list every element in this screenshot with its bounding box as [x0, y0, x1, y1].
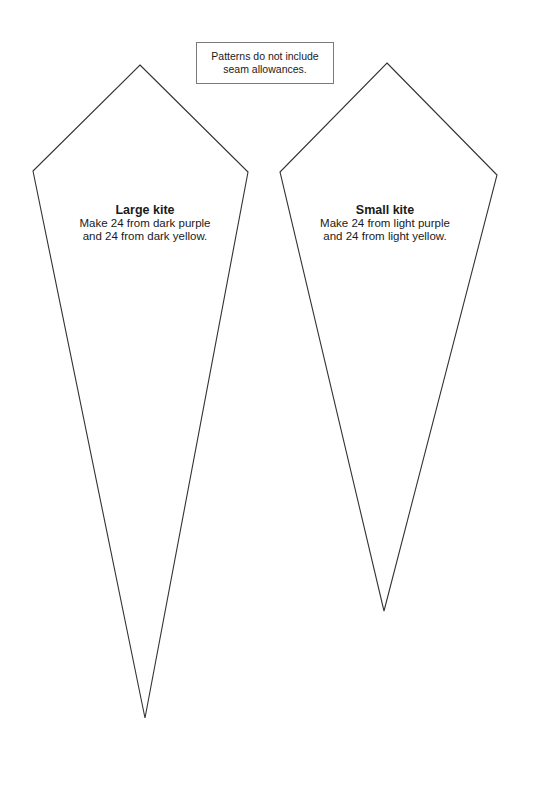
small-kite-instruction-1: Make 24 from light purple	[300, 217, 470, 230]
seam-allowance-note: Patterns do not include seam allowances.	[196, 42, 334, 84]
pattern-shapes	[0, 0, 534, 791]
large-kite-title: Large kite	[60, 203, 230, 217]
small-kite-instruction-2: and 24 from light yellow.	[300, 230, 470, 243]
large-kite-instruction-1: Make 24 from dark purple	[60, 217, 230, 230]
large-kite-template	[33, 65, 248, 718]
large-kite-label: Large kite Make 24 from dark purple and …	[60, 203, 230, 243]
note-line-1: Patterns do not include	[211, 50, 318, 63]
note-line-2: seam allowances.	[223, 63, 306, 76]
large-kite-instruction-2: and 24 from dark yellow.	[60, 230, 230, 243]
small-kite-label: Small kite Make 24 from light purple and…	[300, 203, 470, 243]
small-kite-title: Small kite	[300, 203, 470, 217]
small-kite-template	[280, 63, 497, 611]
